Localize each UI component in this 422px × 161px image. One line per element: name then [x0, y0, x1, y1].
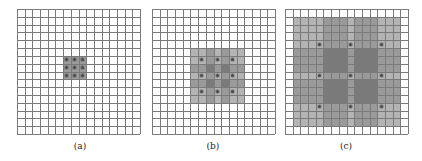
- grid-line-vertical: [221, 9, 222, 134]
- grid-line-horizontal: [285, 118, 408, 119]
- grid-line-vertical: [260, 9, 261, 134]
- grid-line-horizontal: [285, 126, 408, 127]
- grid-line-horizontal: [152, 134, 275, 135]
- grid-line-horizontal: [285, 111, 408, 112]
- grid-line-vertical: [109, 9, 110, 134]
- center-dot: [231, 90, 234, 93]
- panel-a: [17, 9, 140, 134]
- grid-line-vertical: [117, 9, 118, 134]
- grid-line-horizontal: [17, 79, 140, 80]
- grid-c: [285, 9, 408, 134]
- grid-line-vertical: [132, 9, 133, 134]
- caption-a: (a): [60, 141, 100, 151]
- center-dot: [81, 66, 84, 69]
- grid-line-horizontal: [17, 103, 140, 104]
- grid-line-horizontal: [152, 103, 275, 104]
- panel-b: [152, 9, 275, 134]
- center-dot: [81, 74, 84, 77]
- grid-line-horizontal: [285, 87, 408, 88]
- grid-line-horizontal: [285, 103, 408, 104]
- grid-line-horizontal: [152, 79, 275, 80]
- grid-line-horizontal: [285, 134, 408, 135]
- grid-line-vertical: [94, 9, 95, 134]
- grid-line-vertical: [125, 9, 126, 134]
- grid-line-vertical: [393, 9, 394, 134]
- center-dot: [318, 43, 321, 46]
- grid-line-vertical: [408, 9, 409, 134]
- grid-line-horizontal: [17, 72, 140, 73]
- grid-line-horizontal: [152, 87, 275, 88]
- center-dot: [380, 74, 383, 77]
- grid-line-horizontal: [152, 111, 275, 112]
- grid-line-horizontal: [152, 118, 275, 119]
- grid-line-horizontal: [285, 79, 408, 80]
- center-dot: [349, 105, 352, 108]
- grid-line-horizontal: [17, 126, 140, 127]
- grid-a: [17, 9, 140, 134]
- center-dot: [216, 90, 219, 93]
- grid-line-vertical: [252, 9, 253, 134]
- grid-line-vertical: [140, 9, 141, 134]
- grid-line-horizontal: [17, 95, 140, 96]
- grid-line-horizontal: [17, 87, 140, 88]
- grid-line-vertical: [244, 9, 245, 134]
- panel-c: [285, 9, 408, 134]
- grid-line-vertical: [377, 9, 378, 134]
- grid-line-horizontal: [17, 118, 140, 119]
- grid-line-vertical: [86, 9, 87, 134]
- grid-line-horizontal: [17, 111, 140, 112]
- center-dot: [318, 74, 321, 77]
- grid-line-vertical: [354, 9, 355, 134]
- grid-line-vertical: [370, 9, 371, 134]
- caption-c: (c): [326, 141, 366, 151]
- grid-line-horizontal: [152, 126, 275, 127]
- caption-b: (b): [193, 141, 233, 151]
- grid-line-horizontal: [152, 95, 275, 96]
- center-dot: [349, 43, 352, 46]
- grid-line-horizontal: [152, 72, 275, 73]
- grid-line-horizontal: [17, 134, 140, 135]
- center-dot: [380, 43, 383, 46]
- grid-line-horizontal: [285, 95, 408, 96]
- grid-line-vertical: [362, 9, 363, 134]
- grid-line-vertical: [102, 9, 103, 134]
- grid-line-horizontal: [285, 72, 408, 73]
- grid-b: [152, 9, 275, 134]
- grid-line-vertical: [237, 9, 238, 134]
- grid-line-vertical: [229, 9, 230, 134]
- grid-line-vertical: [267, 9, 268, 134]
- center-dot: [349, 74, 352, 77]
- grid-line-vertical: [275, 9, 276, 134]
- center-dot: [216, 74, 219, 77]
- grid-line-vertical: [400, 9, 401, 134]
- grid-line-vertical: [385, 9, 386, 134]
- center-dot: [380, 105, 383, 108]
